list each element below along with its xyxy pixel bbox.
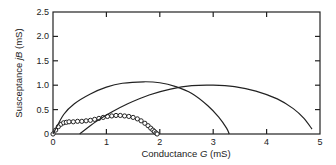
data-point bbox=[122, 114, 126, 118]
data-point bbox=[155, 132, 159, 136]
y-tick-label: 1.0 bbox=[36, 80, 49, 90]
data-point bbox=[75, 119, 79, 123]
data-point bbox=[67, 120, 71, 124]
y-axis-label: Susceptance jB (mS) bbox=[13, 28, 24, 117]
series-layer bbox=[51, 82, 312, 136]
series-markers-0 bbox=[51, 113, 159, 136]
x-axis-label-symbol: G bbox=[200, 148, 207, 159]
chart: 012345 00.51.01.52.02.5 Conductance G (m… bbox=[0, 0, 336, 165]
x-axis-ticks: 012345 bbox=[50, 12, 322, 147]
x-tick-label: 3 bbox=[211, 137, 216, 147]
x-tick-label: 0 bbox=[50, 137, 55, 147]
y-axis-label-symbol: jB bbox=[13, 51, 24, 62]
x-tick-label: 5 bbox=[317, 137, 322, 147]
data-point bbox=[84, 119, 88, 123]
data-point bbox=[71, 120, 75, 124]
y-axis-label-prefix: Susceptance bbox=[13, 60, 24, 118]
data-point bbox=[80, 119, 84, 123]
x-axis-label-prefix: Conductance bbox=[141, 148, 200, 159]
data-point bbox=[118, 113, 122, 117]
data-point bbox=[127, 114, 131, 118]
y-tick-label: 0.5 bbox=[36, 105, 49, 115]
y-axis-label-unit: (mS) bbox=[13, 28, 24, 51]
data-point bbox=[110, 114, 114, 118]
data-point bbox=[131, 115, 135, 119]
x-axis-label-unit: (mS) bbox=[207, 148, 230, 159]
x-tick-label: 4 bbox=[264, 137, 269, 147]
data-point bbox=[88, 118, 92, 122]
x-tick-label: 2 bbox=[157, 137, 162, 147]
plot-frame bbox=[53, 12, 320, 134]
x-tick-label: 1 bbox=[104, 137, 109, 147]
y-tick-label: 0 bbox=[44, 129, 49, 139]
x-axis-label: Conductance G (mS) bbox=[141, 148, 230, 159]
data-point bbox=[114, 113, 118, 117]
series-line-1 bbox=[53, 82, 229, 134]
y-tick-label: 1.5 bbox=[36, 56, 49, 66]
series-line-2 bbox=[80, 85, 312, 134]
y-tick-label: 2.5 bbox=[36, 7, 49, 17]
y-tick-label: 2.0 bbox=[36, 31, 49, 41]
